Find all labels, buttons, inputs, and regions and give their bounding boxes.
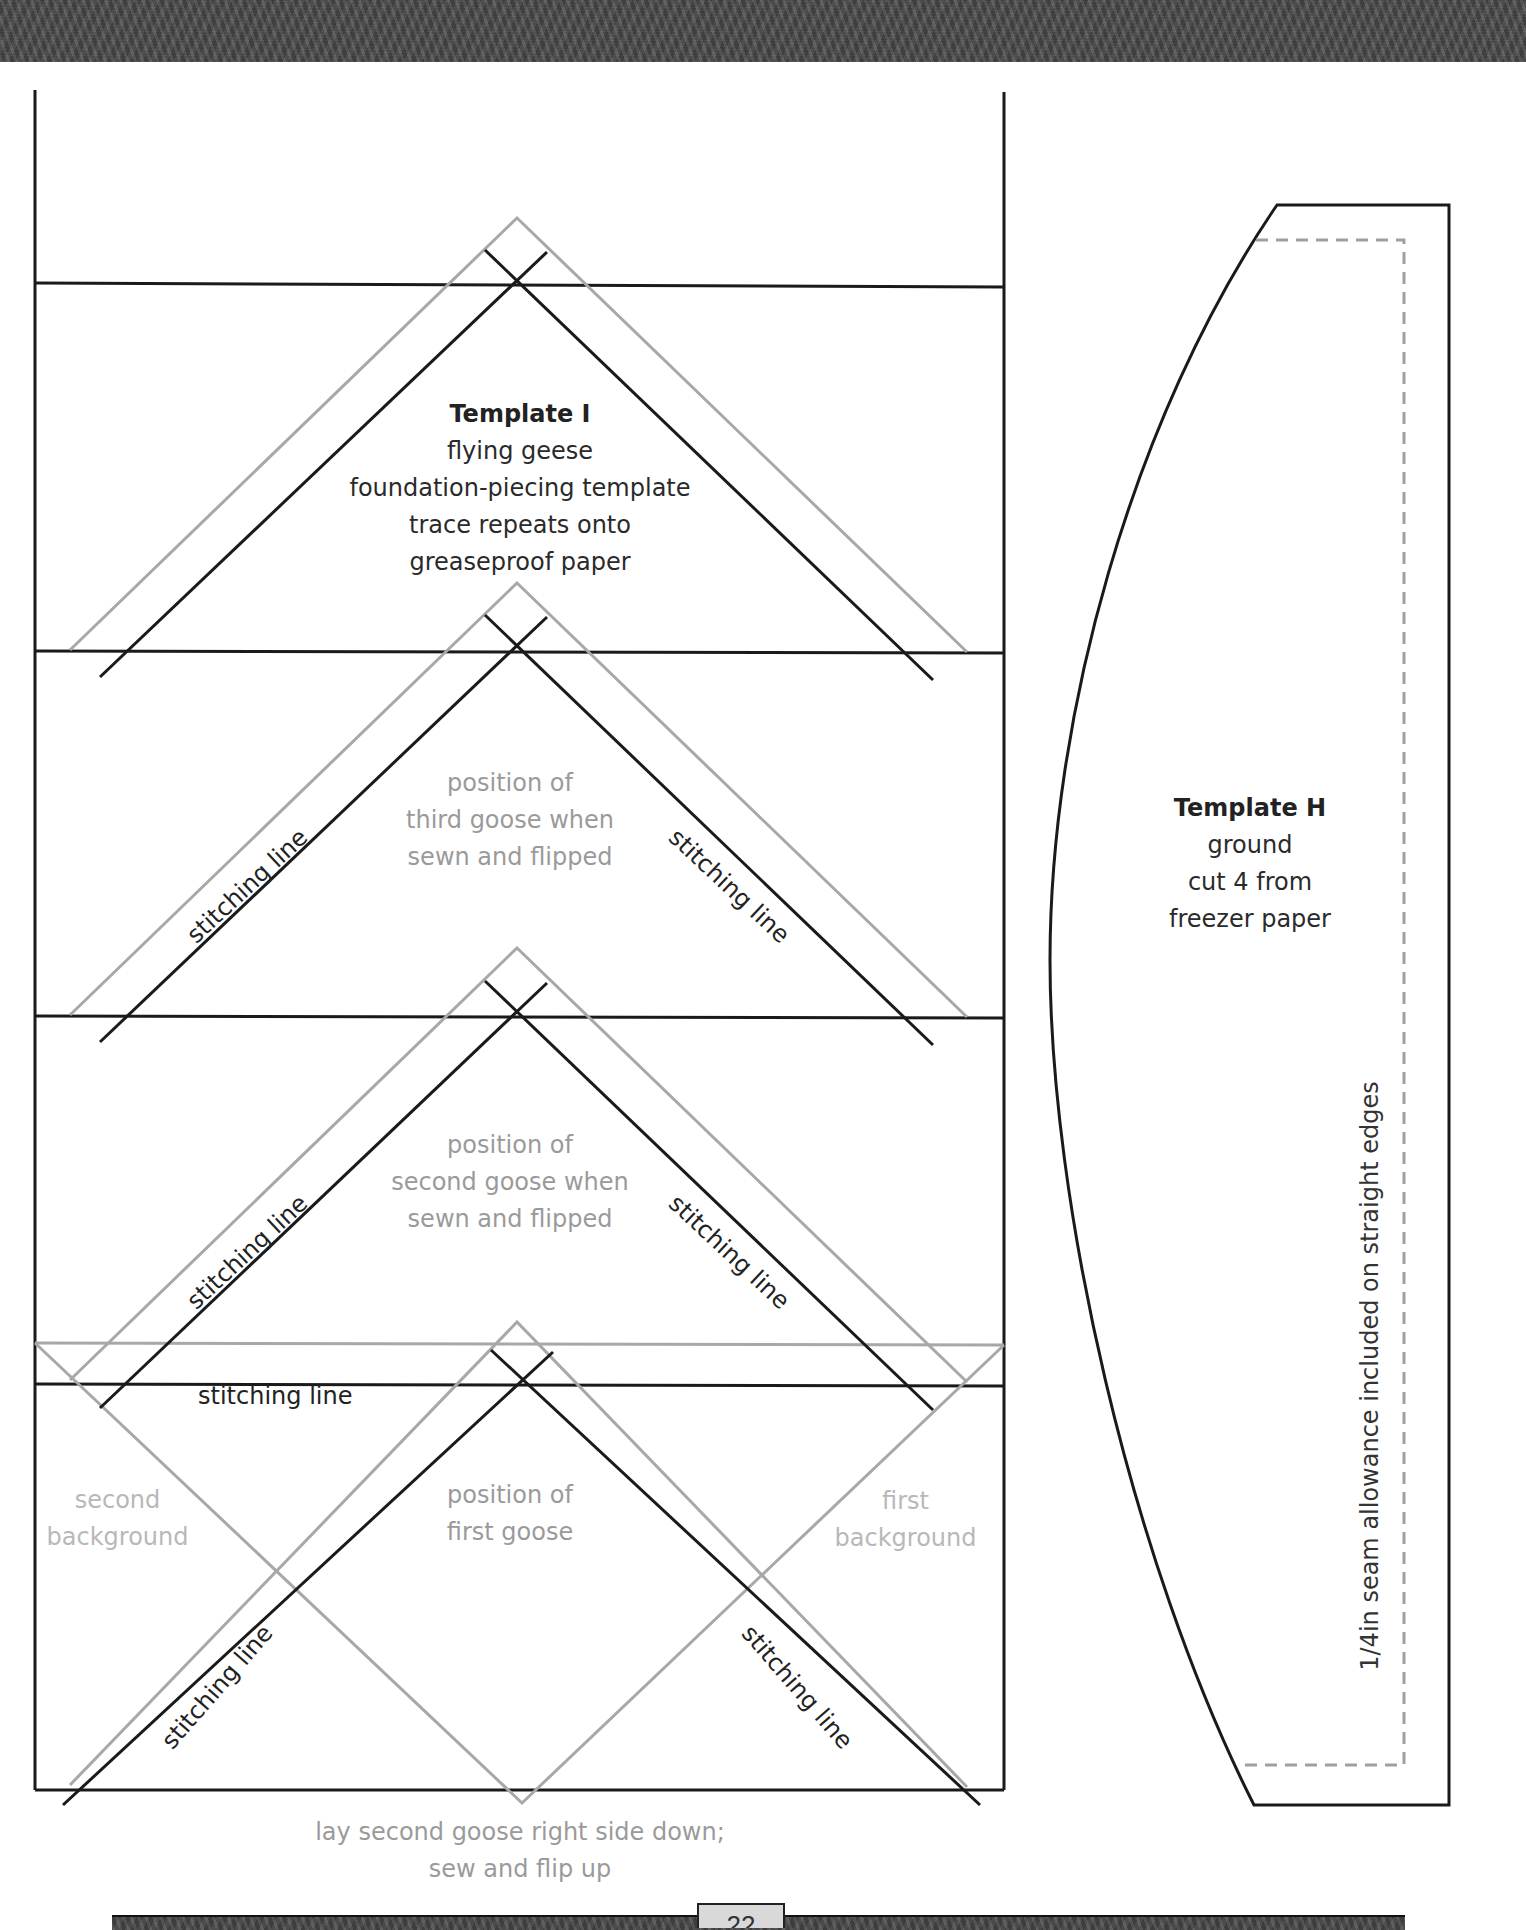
label-line: position of [340, 1127, 680, 1164]
label-line: second [30, 1482, 205, 1519]
stitching-line-label: stitching line [198, 1382, 352, 1410]
template-h-line: ground [1130, 827, 1370, 864]
label-line: sewn and flipped [340, 839, 680, 876]
label-line: first goose [380, 1514, 640, 1551]
template-i-line: greaseproof paper [300, 544, 740, 581]
page-number-tab: 22 [697, 1903, 785, 1928]
second-goose-label: position of second goose when sewn and f… [340, 1127, 680, 1238]
label-line: position of [380, 1477, 640, 1514]
template-h-shape [1050, 205, 1449, 1805]
label-line: background [818, 1520, 993, 1557]
template-h-line: freezer paper [1130, 901, 1370, 938]
template-i-line: trace repeats onto [300, 507, 740, 544]
label-line: background [30, 1519, 205, 1556]
caption-line: sew and flip up [260, 1851, 780, 1888]
label-line: position of [340, 765, 680, 802]
label-line: first [818, 1483, 993, 1520]
template-i-line: foundation-piecing template [300, 470, 740, 507]
template-h-label: Template H ground cut 4 from freezer pap… [1130, 790, 1370, 938]
label-line: second goose when [340, 1164, 680, 1201]
label-line: sewn and flipped [340, 1201, 680, 1238]
first-background-label: first background [818, 1483, 993, 1557]
template-i-label: Template I flying geese foundation-pieci… [300, 396, 740, 581]
seam-allowance-note: 1/4in seam allowance included on straigh… [1356, 1056, 1384, 1696]
template-h-title: Template H [1130, 790, 1370, 827]
caption: lay second goose right side down; sew an… [260, 1814, 780, 1888]
label-line: third goose when [340, 802, 680, 839]
template-i-title: Template I [300, 396, 740, 433]
second-background-label: second background [30, 1482, 205, 1556]
template-i-line: flying geese [300, 433, 740, 470]
first-goose-label: position of first goose [380, 1477, 640, 1551]
third-goose-label: position of third goose when sewn and fl… [340, 765, 680, 876]
caption-line: lay second goose right side down; [260, 1814, 780, 1851]
template-h-line: cut 4 from [1130, 864, 1370, 901]
